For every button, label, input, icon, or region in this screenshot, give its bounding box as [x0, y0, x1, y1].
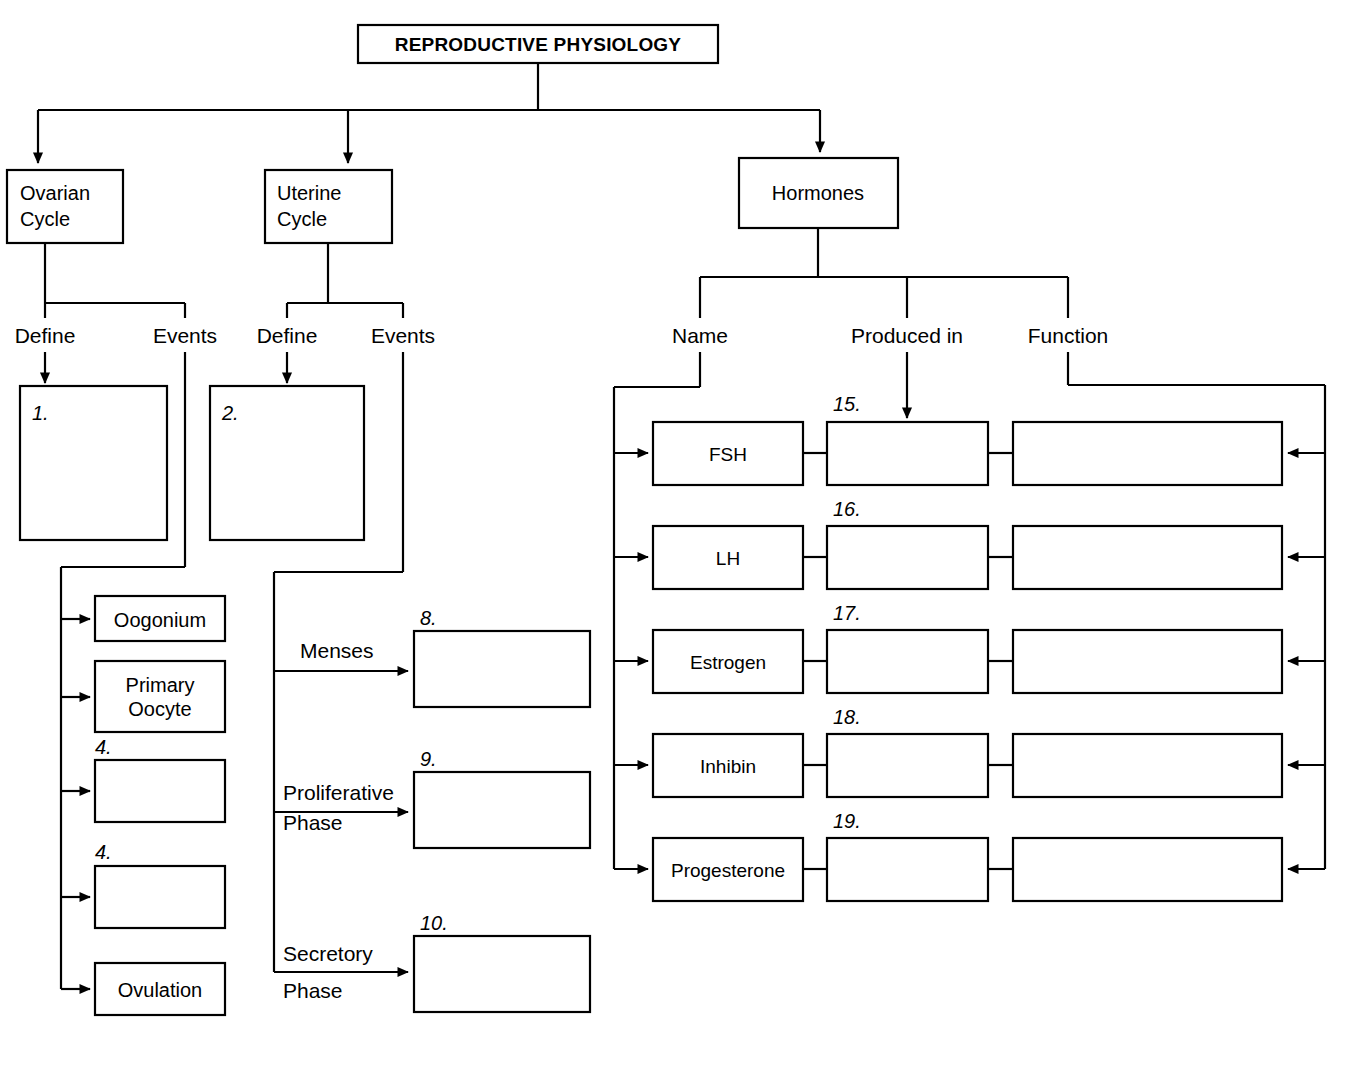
uterine-phase-2-number: 9.	[420, 748, 437, 770]
branch-node-ovarian-cycle: Ovarian Cycle	[7, 170, 123, 243]
hormone-producedin-number-15: 15.	[833, 393, 861, 415]
ovarian-events-label: Events	[153, 324, 217, 347]
ovarian-cycle-label-line2: Cycle	[20, 208, 70, 230]
reproductive-physiology-flowchart: REPRODUCTIVE PHYSIOLOGY Ovarian Cycle De…	[0, 0, 1360, 1068]
ovarian-event-4-number: 4.	[95, 841, 112, 863]
hormone-function-box-inhibin[interactable]	[1013, 734, 1282, 797]
hormone-row: LH 16.	[653, 498, 1325, 589]
oogonium-label: Oogonium	[114, 609, 206, 631]
uterine-events-label: Events	[371, 324, 435, 347]
uterine-phase-1-number: 8.	[420, 607, 437, 629]
hormone-row: FSH 15.	[653, 393, 1325, 485]
hormones-column-header-function: Function	[1028, 324, 1109, 347]
uterine-define-answer-node[interactable]: 2.	[210, 386, 364, 540]
hormone-function-box-lh[interactable]	[1013, 526, 1282, 589]
uterine-phase-3-label-line1: Secretory	[283, 942, 373, 965]
uterine-cycle-label-line1: Uterine	[277, 182, 341, 204]
hormone-function-box-estrogen[interactable]	[1013, 630, 1282, 693]
hormones-column-header-produced-in: Produced in	[851, 324, 963, 347]
hormone-producedin-box-inhibin[interactable]	[827, 734, 988, 797]
uterine-phase-2-label-line2: Phase	[283, 811, 343, 834]
ovarian-define-answer-node[interactable]: 1.	[20, 386, 167, 540]
primary-oocyte-box	[95, 661, 225, 732]
ovarian-define-answer-number: 1.	[32, 402, 49, 424]
uterine-cycle-box	[265, 170, 392, 243]
ovarian-define-label: Define	[15, 324, 76, 347]
hormone-row: Estrogen 17.	[653, 602, 1325, 693]
ovarian-event-3-number: 4.	[95, 736, 112, 758]
uterine-phase-node-3[interactable]: 10.	[414, 912, 590, 1012]
root-title-label: REPRODUCTIVE PHYSIOLOGY	[395, 34, 682, 55]
uterine-phase-2-label-line1: Proliferative	[283, 781, 394, 804]
ovarian-event-node-5: Ovulation	[95, 963, 225, 1015]
ovarian-cycle-box	[7, 170, 123, 243]
uterine-define-label: Define	[257, 324, 318, 347]
uterine-phase-2-answer-box[interactable]	[414, 772, 590, 848]
hormone-name-label-estrogen: Estrogen	[690, 652, 766, 673]
ovulation-label: Ovulation	[118, 979, 203, 1001]
ovarian-event-node-4[interactable]: 4.	[95, 841, 225, 928]
hormone-row: Inhibin 18.	[653, 706, 1325, 797]
flowchart-canvas: REPRODUCTIVE PHYSIOLOGY Ovarian Cycle De…	[0, 0, 1360, 1068]
hormones-column-header-name: Name	[672, 324, 728, 347]
hormone-producedin-number-16: 16.	[833, 498, 861, 520]
ovarian-event-node-1: Oogonium	[95, 596, 225, 641]
ovarian-event-4-answer-box[interactable]	[95, 866, 225, 928]
branch-node-hormones: Hormones	[739, 158, 898, 228]
hormone-name-label-inhibin: Inhibin	[700, 756, 756, 777]
hormones-label: Hormones	[772, 182, 864, 204]
ovarian-event-3-answer-box[interactable]	[95, 760, 225, 822]
branch-node-uterine-cycle: Uterine Cycle	[265, 170, 392, 243]
hormone-producedin-number-19: 19.	[833, 810, 861, 832]
uterine-define-answer-number: 2.	[221, 402, 239, 424]
hormone-producedin-number-18: 18.	[833, 706, 861, 728]
uterine-phase-3-label-line2: Phase	[283, 979, 343, 1002]
uterine-cycle-label-line2: Cycle	[277, 208, 327, 230]
hormone-producedin-box-fsh[interactable]	[827, 422, 988, 485]
hormone-producedin-number-17: 17.	[833, 602, 861, 624]
hormone-producedin-box-progesterone[interactable]	[827, 838, 988, 901]
hormone-function-box-fsh[interactable]	[1013, 422, 1282, 485]
hormone-name-label-fsh: FSH	[709, 444, 747, 465]
hormone-producedin-box-lh[interactable]	[827, 526, 988, 589]
ovarian-event-node-2: Primary Oocyte	[95, 661, 225, 732]
uterine-phase-node-1[interactable]: 8.	[414, 607, 590, 707]
ovarian-event-node-3[interactable]: 4.	[95, 736, 225, 822]
primary-oocyte-label-line2: Oocyte	[128, 698, 191, 720]
hormone-name-label-progesterone: Progesterone	[671, 860, 785, 881]
uterine-phase-1-label-line1: Menses	[300, 639, 374, 662]
ovarian-cycle-label-line1: Ovarian	[20, 182, 90, 204]
primary-oocyte-label-line1: Primary	[126, 674, 195, 696]
uterine-phase-1-answer-box[interactable]	[414, 631, 590, 707]
uterine-phase-3-number: 10.	[420, 912, 448, 934]
uterine-phase-node-2[interactable]: 9.	[414, 748, 590, 848]
hormone-producedin-box-estrogen[interactable]	[827, 630, 988, 693]
hormone-name-label-lh: LH	[716, 548, 740, 569]
root-title-node: REPRODUCTIVE PHYSIOLOGY	[358, 25, 718, 63]
uterine-phase-3-answer-box[interactable]	[414, 936, 590, 1012]
hormone-function-box-progesterone[interactable]	[1013, 838, 1282, 901]
hormone-row: Progesterone 19.	[653, 810, 1325, 901]
